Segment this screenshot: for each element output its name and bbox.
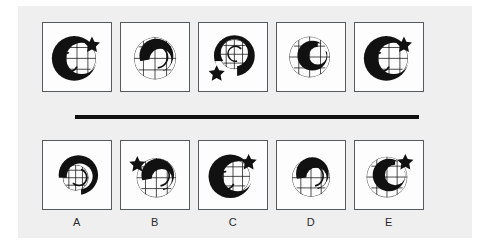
crescent-grid-figure — [277, 141, 345, 209]
crescent-grid-star-figure — [199, 141, 267, 209]
answer-cell-b[interactable]: B — [116, 140, 194, 229]
crescent-shape — [121, 141, 189, 209]
question-sequence — [38, 22, 428, 111]
question-panel-1[interactable] — [42, 22, 112, 92]
crescent-grid-figure — [43, 141, 111, 209]
answer-label-a: A — [73, 216, 81, 229]
question-cell-1[interactable] — [38, 22, 116, 111]
crescent-grid-figure — [121, 23, 189, 91]
question-panel-4[interactable] — [276, 22, 346, 92]
answer-label-e: E — [385, 216, 393, 229]
puzzle-page: A — [0, 0, 495, 243]
question-cell-5[interactable] — [350, 22, 428, 111]
answer-panel-e[interactable] — [354, 140, 424, 210]
crescent-shape — [121, 23, 189, 91]
answer-panel-a[interactable] — [42, 140, 112, 210]
answer-cell-c[interactable]: C — [194, 140, 272, 229]
answer-panel-b[interactable] — [120, 140, 190, 210]
question-panel-3[interactable] — [198, 22, 268, 92]
crescent-shape — [199, 141, 267, 209]
answer-cell-d[interactable]: D — [272, 140, 350, 229]
answer-panel-c[interactable] — [198, 140, 268, 210]
crescent-shape — [199, 23, 267, 91]
crescent-shape — [43, 141, 111, 209]
crescent-grid-star-figure — [43, 23, 111, 91]
crescent-shape — [277, 23, 345, 91]
answer-label-b: B — [151, 216, 159, 229]
crescent-grid-star-figure — [121, 141, 189, 209]
question-cell-2[interactable] — [116, 22, 194, 111]
answer-cell-a[interactable]: A — [38, 140, 116, 229]
answer-label-d: D — [307, 216, 315, 229]
question-panel-5[interactable] — [354, 22, 424, 92]
crescent-shape — [277, 141, 345, 209]
answer-label-c: C — [229, 216, 237, 229]
question-cell-3[interactable] — [194, 22, 272, 111]
section-divider — [75, 115, 419, 119]
crescent-grid-figure — [277, 23, 345, 91]
answer-panel-d[interactable] — [276, 140, 346, 210]
crescent-grid-star-figure — [355, 141, 423, 209]
crescent-grid-star-figure — [355, 23, 423, 91]
answer-cell-e[interactable]: E — [350, 140, 428, 229]
crescent-shape — [355, 141, 423, 209]
crescent-shape — [355, 23, 423, 91]
question-cell-4[interactable] — [272, 22, 350, 111]
crescent-grid-star-figure — [199, 23, 267, 91]
answer-options: A — [38, 140, 428, 229]
question-panel-2[interactable] — [120, 22, 190, 92]
crescent-shape — [43, 23, 111, 91]
